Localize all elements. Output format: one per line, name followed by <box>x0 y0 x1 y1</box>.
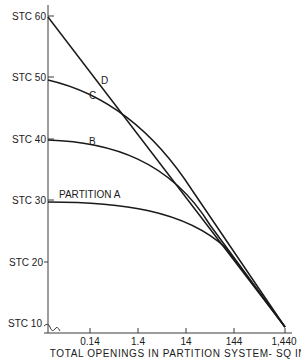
stc-chart: STC 60 STC 50 STC 40 STC 30 STC 20 STC 1… <box>0 0 301 364</box>
y-label-40: STC 40 <box>12 134 46 145</box>
y-label-60: STC 60 <box>12 11 46 22</box>
x-ticks <box>90 328 285 333</box>
curve-b <box>48 140 285 327</box>
y-label-10: STC 10 <box>8 318 42 329</box>
curve-label-d: D <box>101 75 108 86</box>
y-label-30: STC 30 <box>12 195 46 206</box>
x-label-14: 14 <box>180 336 192 347</box>
x-axis-title: TOTAL OPENINGS IN PARTITION SYSTEM- SQ I… <box>50 348 301 359</box>
curve-label-a: PARTITION A <box>59 189 121 200</box>
x-label-1440: 1,440 <box>271 336 296 347</box>
y-label-20: STC 20 <box>9 257 43 268</box>
x-label-144: 144 <box>226 336 243 347</box>
curve-label-c: C <box>89 90 96 101</box>
axis-break-icon <box>44 324 60 331</box>
x-label-1.4: 1.4 <box>131 336 145 347</box>
curve-a <box>48 202 285 327</box>
y-label-50: STC 50 <box>12 72 46 83</box>
x-label-0.14: 0.14 <box>80 336 100 347</box>
curve-label-b: B <box>89 136 96 147</box>
